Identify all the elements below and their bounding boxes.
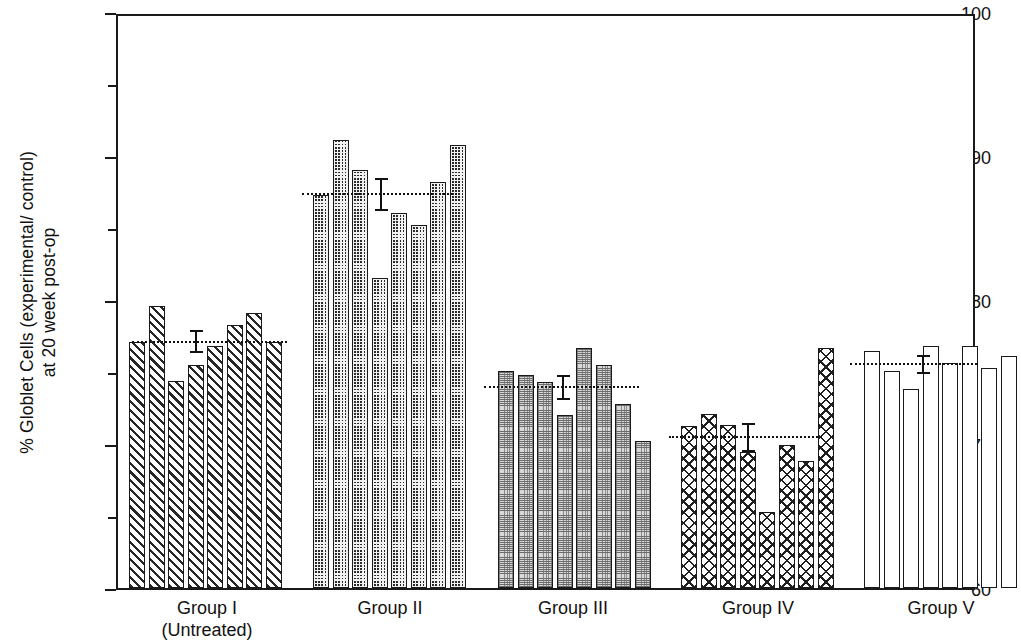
x-group-label-2: Group II	[287, 598, 493, 620]
mean-line	[132, 341, 287, 343]
bar	[333, 140, 349, 588]
bar	[518, 375, 534, 588]
bar	[720, 425, 736, 588]
error-bar	[747, 423, 749, 450]
error-bar-cap-upper	[917, 355, 930, 357]
error-bar-cap-upper	[557, 375, 570, 377]
bar	[207, 346, 223, 588]
bar	[615, 404, 631, 588]
y-tick-major-90	[105, 157, 116, 159]
bar	[923, 346, 939, 588]
error-bar	[922, 355, 924, 372]
bar	[411, 225, 427, 588]
y-tick-minor-65	[108, 517, 116, 519]
y-tick-major-60	[105, 589, 116, 591]
bar	[149, 306, 165, 588]
error-bar-cap-lower	[742, 450, 755, 452]
y-tick-major-70	[105, 445, 116, 447]
bar	[129, 342, 145, 588]
x-group-label-5: Group V	[838, 598, 1021, 620]
bar	[246, 313, 262, 588]
error-bar	[195, 330, 197, 351]
bar	[635, 441, 651, 588]
x-group-label-4: Group IV	[655, 598, 861, 620]
x-group-label-3: Group III	[470, 598, 676, 620]
bar	[188, 365, 204, 588]
bar	[557, 415, 573, 588]
error-bar-cap-upper	[742, 423, 755, 425]
mean-line	[669, 436, 822, 438]
bar	[798, 461, 814, 588]
bar	[962, 346, 978, 588]
error-bar	[562, 375, 564, 398]
bar	[884, 371, 900, 588]
y-tick-major-80	[105, 301, 116, 303]
bar	[779, 445, 795, 588]
bar	[1001, 356, 1017, 588]
error-bar-cap-lower	[375, 209, 388, 211]
bar	[168, 381, 184, 588]
bar	[313, 195, 329, 588]
plot-area	[116, 14, 975, 590]
y-tick-minor-95	[108, 85, 116, 87]
y-axis-title: % Globlet Cells (experimental/ control) …	[16, 42, 61, 562]
error-bar-cap-upper	[375, 178, 388, 180]
bar	[759, 512, 775, 588]
bar	[903, 389, 919, 588]
bar	[266, 342, 282, 588]
error-bar-cap-lower	[917, 372, 930, 374]
bar	[430, 182, 446, 588]
bar	[864, 351, 880, 588]
bar	[391, 213, 407, 588]
bar	[352, 170, 368, 588]
bar	[576, 348, 592, 588]
bar	[681, 426, 697, 588]
error-bar-cap-upper	[190, 330, 203, 332]
bar	[227, 325, 243, 588]
mean-line	[850, 363, 977, 365]
error-bar-cap-lower	[190, 351, 203, 353]
error-bar	[380, 178, 382, 209]
bar	[537, 382, 553, 588]
bar	[818, 348, 834, 588]
y-tick-major-100	[105, 13, 116, 15]
y-tick-minor-85	[108, 229, 116, 231]
bar	[372, 278, 388, 588]
bar	[450, 145, 466, 588]
x-group-label-1: Group I (Untreated)	[104, 598, 310, 642]
bar	[942, 363, 958, 588]
error-bar-cap-lower	[557, 398, 570, 400]
bar	[981, 368, 997, 588]
bar	[701, 414, 717, 588]
bar	[596, 365, 612, 588]
bar	[740, 452, 756, 588]
bar	[498, 371, 514, 588]
y-tick-minor-75	[108, 373, 116, 375]
